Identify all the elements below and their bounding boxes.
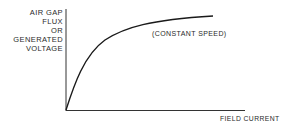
y-label-line: FLUX [13, 17, 63, 26]
y-label-line: GENERATED [13, 35, 63, 44]
constant-speed-annotation: (CONSTANT SPEED) [152, 30, 227, 37]
y-axis-label: AIR GAP FLUX OR GENERATED VOLTAGE [13, 8, 63, 53]
y-label-line: AIR GAP [13, 8, 63, 17]
y-label-line: OR [13, 26, 63, 35]
x-axis-label: FIELD CURRENT [220, 115, 280, 122]
y-label-line: VOLTAGE [13, 44, 63, 53]
